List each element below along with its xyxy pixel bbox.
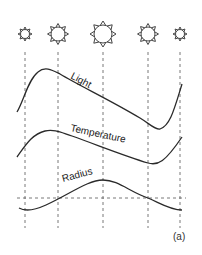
radius-label: Radius	[61, 165, 94, 184]
star-icon	[18, 27, 32, 41]
radius-curve	[19, 180, 182, 210]
light-label: Light	[69, 70, 94, 90]
star-icon	[90, 21, 116, 47]
panel-label: (a)	[173, 231, 185, 242]
temperature-label: Temperature	[70, 122, 128, 145]
cepheid-diagram: Light Temperature Radius (a)	[0, 0, 202, 255]
star-icon	[48, 24, 69, 45]
star-icon	[173, 27, 187, 41]
light-curve	[17, 69, 182, 129]
star-icon	[138, 24, 159, 45]
star-row	[18, 21, 187, 47]
